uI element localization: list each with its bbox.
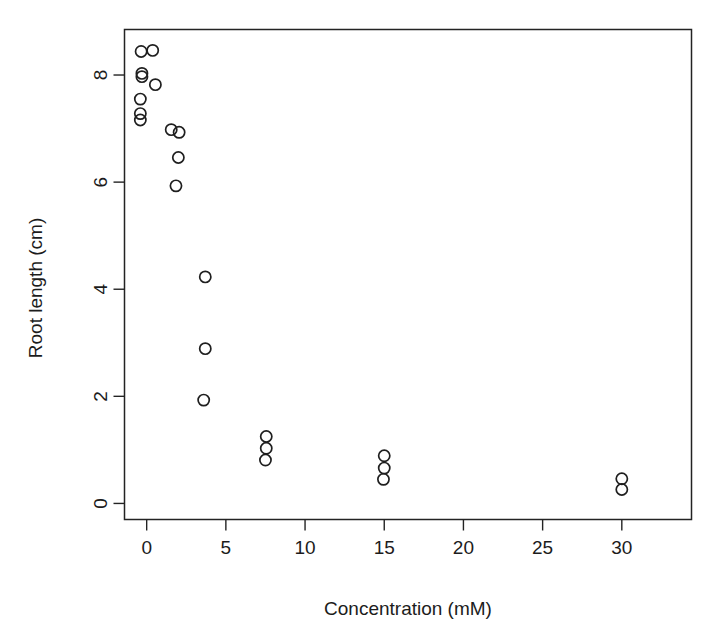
- x-tick-label: 10: [294, 537, 315, 558]
- y-tick-label: 8: [90, 70, 111, 81]
- x-tick-label: 30: [611, 537, 632, 558]
- x-tick-label: 0: [141, 537, 152, 558]
- y-tick-label: 4: [90, 284, 111, 295]
- y-tick-label: 0: [90, 498, 111, 509]
- y-tick-label: 2: [90, 391, 111, 402]
- plot-canvas: 051015202530 02468 Concentration (mM) Ro…: [0, 0, 712, 644]
- y-axis-title: Root length (cm): [25, 218, 46, 358]
- y-tick-label: 6: [90, 177, 111, 188]
- x-tick-label: 15: [374, 537, 395, 558]
- x-tick-label: 25: [532, 537, 553, 558]
- x-tick-label: 5: [221, 537, 232, 558]
- x-axis-title: Concentration (mM): [324, 598, 492, 619]
- x-tick-label: 20: [453, 537, 474, 558]
- figure-background: [0, 0, 712, 644]
- scatter-plot-figure: 051015202530 02468 Concentration (mM) Ro…: [0, 0, 712, 644]
